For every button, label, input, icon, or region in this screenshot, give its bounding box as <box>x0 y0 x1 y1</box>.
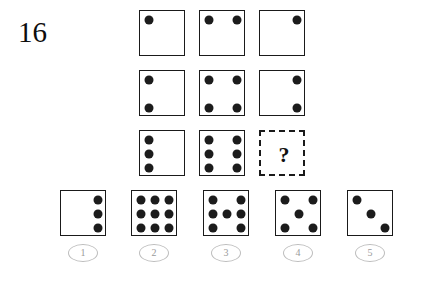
matrix-cell-r3c2-dot <box>205 150 214 159</box>
matrix-cell-r3c2-dot <box>233 150 242 159</box>
matrix-cell-r1c1-dot <box>145 16 154 25</box>
matrix-cell-r1c2-dot <box>233 16 242 25</box>
answer-option-3[interactable]: 3 <box>203 190 251 236</box>
question-mark: ? <box>261 132 307 178</box>
matrix-cell-r2c1 <box>139 70 185 116</box>
answer-option-3-dot <box>237 196 246 205</box>
answer-option-3-dot <box>209 196 218 205</box>
answer-option-3-dot <box>237 210 246 219</box>
answer-option-4-box[interactable] <box>275 190 321 236</box>
matrix-cell-r3c1-dot <box>145 164 154 173</box>
answer-option-1[interactable]: 1 <box>60 190 108 236</box>
answer-option-3-label[interactable]: 3 <box>202 244 250 262</box>
answer-option-3-dot <box>223 210 232 219</box>
answer-option-1-dot <box>94 196 103 205</box>
matrix-cell-r1c3 <box>259 10 305 56</box>
matrix-cell-r2c2-dot <box>205 76 214 85</box>
answer-option-5-label-number: 5 <box>346 244 394 262</box>
matrix-cell-r1c2-dot <box>205 16 214 25</box>
matrix-grid: ? <box>139 10 306 173</box>
matrix-cell-r3c2-dot <box>233 164 242 173</box>
matrix-cell-r3c2-dot <box>205 136 214 145</box>
item-number: 16 <box>18 18 47 47</box>
matrix-cell-r3c2-dot <box>233 136 242 145</box>
answer-option-3-label-number: 3 <box>202 244 250 262</box>
matrix-cell-r1c1-box <box>139 10 185 56</box>
matrix-cell-r2c3-dot <box>293 76 302 85</box>
answer-option-3-box[interactable] <box>203 190 249 236</box>
answer-option-2-dot <box>165 224 174 233</box>
answer-option-5-label[interactable]: 5 <box>346 244 394 262</box>
answer-option-4-dot <box>281 196 290 205</box>
matrix-cell-r2c1-dot <box>145 104 154 113</box>
answer-option-2-dot <box>137 224 146 233</box>
answer-option-1-dot <box>94 210 103 219</box>
answer-option-5-dot <box>353 196 362 205</box>
matrix-cell-r3c3: ? <box>259 130 305 176</box>
answer-option-4-label[interactable]: 4 <box>274 244 322 262</box>
answer-option-1-label[interactable]: 1 <box>59 244 107 262</box>
matrix-cell-r3c1-dot <box>145 150 154 159</box>
matrix-cell-r2c2-dot <box>205 104 214 113</box>
answer-option-2-dot <box>151 196 160 205</box>
answer-option-2-dot <box>151 210 160 219</box>
matrix-cell-r1c2 <box>199 10 245 56</box>
matrix-cell-r3c2-box <box>199 130 245 176</box>
matrix-cell-r2c3 <box>259 70 305 116</box>
answer-option-5-dot <box>367 210 376 219</box>
answer-option-3-dot <box>209 224 218 233</box>
answer-option-1-dot <box>94 224 103 233</box>
matrix-cell-r1c2-box <box>199 10 245 56</box>
matrix-cell-r3c2-dot <box>205 164 214 173</box>
answer-option-3-dot <box>209 210 218 219</box>
matrix-cell-r2c1-box <box>139 70 185 116</box>
matrix-cell-r3c1 <box>139 130 185 176</box>
matrix-cell-r2c3-dot <box>293 104 302 113</box>
answer-option-4-dot <box>281 224 290 233</box>
answer-option-2-label-number: 2 <box>130 244 178 262</box>
matrix-cell-r3c2 <box>199 130 245 176</box>
matrix-cell-r2c3-box <box>259 70 305 116</box>
answer-option-2-label[interactable]: 2 <box>130 244 178 262</box>
answer-option-5-dot <box>381 224 390 233</box>
answer-option-2-dot <box>165 196 174 205</box>
answer-option-2-dot <box>137 210 146 219</box>
answer-options-row: 12345 <box>0 190 440 280</box>
matrix-cell-r2c2 <box>199 70 245 116</box>
answer-option-2[interactable]: 2 <box>131 190 179 236</box>
matrix-cell-r3c3-box: ? <box>259 130 305 176</box>
answer-option-1-label-number: 1 <box>59 244 107 262</box>
matrix-cell-r1c1 <box>139 10 185 56</box>
answer-option-1-box[interactable] <box>60 190 106 236</box>
answer-option-2-dot <box>165 210 174 219</box>
answer-option-5[interactable]: 5 <box>347 190 395 236</box>
answer-option-2-dot <box>137 196 146 205</box>
answer-option-2-dot <box>151 224 160 233</box>
answer-option-3-dot <box>237 224 246 233</box>
matrix-cell-r2c2-dot <box>233 76 242 85</box>
matrix-reasoning-item: 16 ? 12345 <box>0 0 440 289</box>
matrix-cell-r1c3-box <box>259 10 305 56</box>
answer-option-4-dot <box>295 210 304 219</box>
matrix-cell-r3c1-box <box>139 130 185 176</box>
answer-option-4-label-number: 4 <box>274 244 322 262</box>
matrix-cell-r1c3-dot <box>293 16 302 25</box>
answer-option-4-dot <box>309 224 318 233</box>
matrix-cell-r3c1-dot <box>145 136 154 145</box>
answer-option-2-box[interactable] <box>131 190 177 236</box>
answer-option-5-box[interactable] <box>347 190 393 236</box>
answer-option-4-dot <box>309 196 318 205</box>
answer-option-4[interactable]: 4 <box>275 190 323 236</box>
matrix-cell-r2c2-box <box>199 70 245 116</box>
matrix-cell-r2c2-dot <box>233 104 242 113</box>
matrix-cell-r2c1-dot <box>145 76 154 85</box>
